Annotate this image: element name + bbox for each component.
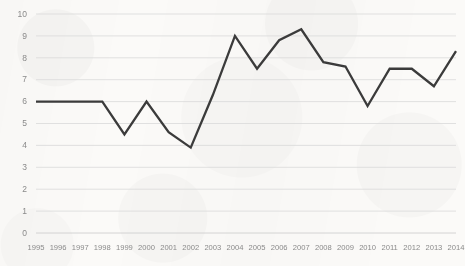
x-axis-tick-label: 2009 — [337, 243, 354, 252]
x-axis-tick-label: 1996 — [50, 243, 67, 252]
data-line-series-1 — [36, 29, 456, 147]
data-series-group — [36, 29, 456, 147]
line-chart: 109876543210 199519961997199819992000200… — [0, 0, 465, 266]
y-axis-tick-label: 5 — [22, 118, 27, 128]
chart-page: 109876543210 199519961997199819992000200… — [0, 0, 465, 266]
y-axis-tick-label: 9 — [22, 31, 27, 41]
x-axis-tick-label: 2000 — [138, 243, 155, 252]
x-axis-tick-label: 2014 — [448, 243, 465, 252]
x-axis-tick-label: 2011 — [382, 243, 398, 252]
gridlines-group — [36, 14, 456, 233]
x-axis-tick-label: 1998 — [94, 243, 111, 252]
x-axis-tick-label: 2003 — [204, 243, 221, 252]
x-axis-tick-labels: 1995199619971998199920002001200220032004… — [28, 243, 465, 252]
y-axis-tick-label: 10 — [18, 9, 28, 19]
x-axis-tick-label: 2008 — [315, 243, 332, 252]
x-axis-tick-label: 2002 — [182, 243, 199, 252]
y-axis-tick-label: 6 — [22, 96, 27, 106]
x-axis-tick-label: 1997 — [72, 243, 89, 252]
x-axis-tick-label: 2006 — [271, 243, 288, 252]
y-axis-tick-label: 0 — [22, 228, 27, 238]
x-axis-tick-label: 2012 — [403, 243, 420, 252]
y-axis-tick-label: 4 — [22, 140, 27, 150]
x-axis-tick-label: 1999 — [116, 243, 133, 252]
y-axis-tick-labels: 109876543210 — [18, 9, 28, 238]
x-axis-tick-label: 2005 — [249, 243, 266, 252]
x-axis-tick-label: 1995 — [28, 243, 45, 252]
x-axis-tick-label: 2010 — [359, 243, 376, 252]
y-axis-tick-label: 3 — [22, 162, 27, 172]
x-axis-tick-label: 2001 — [160, 243, 177, 252]
y-axis-tick-label: 1 — [22, 206, 27, 216]
y-axis-tick-label: 7 — [22, 74, 27, 84]
y-axis-tick-label: 2 — [22, 184, 27, 194]
x-axis-tick-label: 2004 — [226, 243, 243, 252]
y-axis-tick-label: 8 — [22, 53, 27, 63]
x-axis-tick-label: 2007 — [293, 243, 310, 252]
x-axis-tick-label: 2013 — [425, 243, 442, 252]
